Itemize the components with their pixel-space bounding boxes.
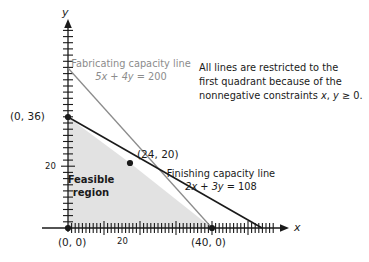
x-axis-arrow-icon	[280, 224, 289, 232]
fabricating-eq-sign: =	[134, 71, 148, 82]
fabricating-capacity-annotation: Fabricating capacity line 5x + 4y = 200	[68, 58, 194, 83]
fabricating-capacity-equation: 5x + 4y = 200	[68, 71, 194, 84]
finishing-capacity-title: Finishing capacity line	[160, 168, 282, 181]
feasible-region-label-line2: region	[60, 187, 122, 200]
point-marker-24-20	[127, 160, 133, 166]
finishing-capacity-equation: 2x + 3y = 108	[160, 181, 282, 194]
point-label-0-0: (0, 0)	[58, 236, 86, 249]
y-tick-label-20: 20	[45, 161, 56, 172]
quadrant-note: All lines are restricted to the first qu…	[199, 61, 369, 104]
quadrant-note-line1: All lines are restricted to the	[199, 61, 369, 75]
y-axis-label: y	[62, 6, 69, 20]
fabricating-eq-lhs: 5x + 4y	[95, 71, 134, 82]
y-axis-arrow-icon	[64, 19, 72, 28]
point-marker-0-36	[65, 114, 71, 120]
point-marker-40-0	[209, 225, 215, 231]
quadrant-note-line3-pre: nonnegative constraints	[199, 90, 321, 101]
linear-programming-figure: y x 20 20 (0, 36) (24, 20) (0, 0) (40, 0…	[0, 0, 369, 262]
point-label-40-0: (40, 0)	[191, 236, 226, 249]
point-marker-0-0	[65, 225, 71, 231]
quadrant-note-line2: first quadrant because of the	[199, 75, 369, 89]
feasible-region-label: Feasible region	[60, 174, 122, 199]
fabricating-capacity-title: Fabricating capacity line	[68, 58, 194, 71]
finishing-eq-sign: =	[224, 181, 238, 192]
finishing-eq-lhs: 2x + 3y	[185, 181, 224, 192]
quadrant-note-line3-post: ≥ 0.	[339, 90, 363, 101]
point-label-24-20: (24, 20)	[137, 148, 179, 161]
x-tick-label-20: 20	[117, 236, 128, 247]
point-label-0-36: (0, 36)	[10, 110, 45, 123]
graph-canvas	[0, 0, 369, 262]
feasible-region-label-line1: Feasible	[60, 174, 122, 187]
x-axis-label: x	[294, 221, 301, 235]
quadrant-note-line3: nonnegative constraints x, y ≥ 0.	[199, 89, 369, 103]
finishing-eq-rhs: 108	[238, 181, 257, 192]
finishing-capacity-annotation: Finishing capacity line 2x + 3y = 108	[160, 168, 282, 193]
fabricating-eq-rhs: 200	[148, 71, 167, 82]
